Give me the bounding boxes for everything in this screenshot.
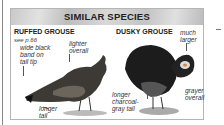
panel-title: SIMILAR SPECIES xyxy=(11,11,203,22)
page-reference: see p.66 xyxy=(14,37,37,43)
ruffed-grouse-illustration xyxy=(23,47,113,117)
similar-species-panel: SIMILAR SPECIES RUFFED GROUSE see p.66 w… xyxy=(10,8,204,120)
page-edge-line xyxy=(2,0,3,125)
margin-tick xyxy=(216,29,221,30)
panel-header: SIMILAR SPECIES xyxy=(11,9,203,25)
species-name-dusky: DUSKY GROUSE xyxy=(116,28,173,35)
species-name-ruffed: RUFFED GROUSE xyxy=(14,28,75,35)
dusky-grouse-illustration xyxy=(121,39,201,117)
